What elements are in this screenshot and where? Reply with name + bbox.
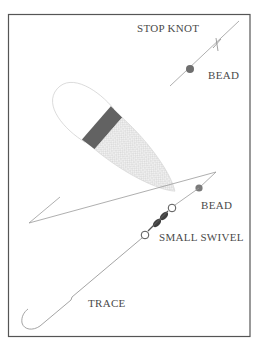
label-small-swivel: SMALL SWIVEL [159,232,244,243]
label-bead-top: BEAD [208,70,239,81]
label-trace: TRACE [88,298,126,309]
float-rig-diagram [0,0,261,347]
bead-top-icon [186,65,194,73]
trace-hook-icon [22,238,142,329]
label-bead-lower: BEAD [201,200,232,211]
line-fold [29,172,216,223]
float-icon [42,71,190,209]
diagram-border [9,15,251,337]
label-stop-knot: STOP KNOT [137,23,199,34]
